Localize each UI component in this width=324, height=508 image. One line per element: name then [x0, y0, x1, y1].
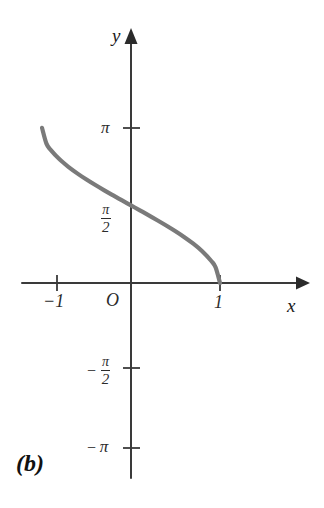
- x-tick-label-neg-one: −1: [43, 292, 64, 310]
- fraction-pi-over-2: π 2: [100, 355, 112, 387]
- y-tick-label-neg-pi: −π: [86, 438, 108, 456]
- fraction-numerator: π: [100, 203, 112, 218]
- minus-sign: −: [86, 363, 100, 379]
- y-tick-label-pi-half: π 2: [100, 203, 112, 235]
- y-axis-arrowhead: [125, 28, 138, 44]
- y-tick-label-pi: π: [101, 119, 110, 136]
- origin-label: O: [106, 291, 119, 309]
- x-tick-label-one: 1: [214, 293, 223, 311]
- x-axis-label: x: [287, 296, 295, 315]
- fraction-numerator: π: [100, 355, 112, 370]
- y-axis-label: y: [112, 26, 120, 45]
- pi-glyph: π: [100, 437, 109, 456]
- fraction-denominator: 2: [100, 371, 112, 387]
- fraction-denominator: 2: [100, 219, 112, 235]
- minus-sign: −: [86, 440, 100, 456]
- x-axis-arrowhead: [296, 277, 310, 290]
- fraction-pi-over-2: π 2: [100, 203, 112, 235]
- coordinate-plot: [0, 0, 324, 508]
- y-tick-label-neg-pi-half: − π 2: [86, 355, 111, 387]
- panel-caption: (b): [16, 451, 44, 475]
- figure-panel-b: y x π π 2 − π 2 −π −1 O 1 (b): [0, 0, 324, 508]
